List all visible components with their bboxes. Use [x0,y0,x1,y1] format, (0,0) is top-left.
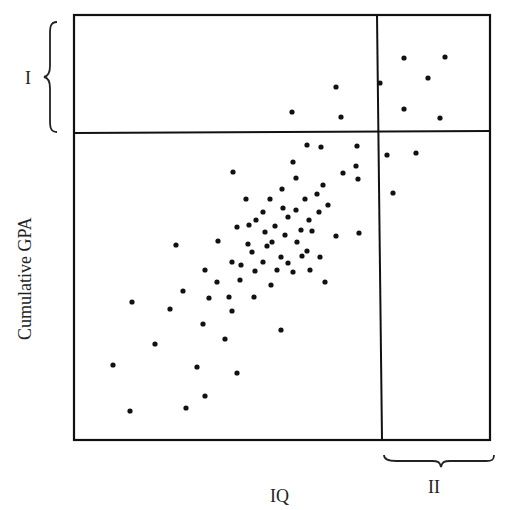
data-point [249,249,254,254]
data-point [229,308,234,313]
data-point [355,176,360,181]
data-point [401,106,406,111]
brace-left-icon [44,22,57,132]
data-point [167,306,172,311]
data-point [267,196,272,201]
data-point [290,269,295,274]
data-point [425,75,430,80]
data-point [280,205,285,210]
data-point [202,393,207,398]
data-point [333,84,338,89]
data-point [226,294,231,299]
brace-bottom-icon [384,455,494,467]
data-point [390,190,395,195]
data-point [110,362,115,367]
data-point [206,295,211,300]
data-point [278,327,283,332]
data-point [356,230,361,235]
data-point [173,242,178,247]
data-point [353,163,358,168]
data-point [325,202,330,207]
data-point [253,217,258,222]
data-point [129,299,134,304]
data-point [194,364,199,369]
data-point [260,259,265,264]
data-point [293,207,298,212]
data-point [298,227,303,232]
data-point [285,260,290,265]
data-point [285,214,290,219]
data-point [183,405,188,410]
data-point [234,370,239,375]
data-point [214,279,219,284]
data-point [338,114,343,119]
data-point [318,144,323,149]
data-point [246,222,251,227]
data-point [304,142,309,147]
data-points [110,54,447,413]
data-point [202,267,207,272]
data-point [340,170,345,175]
data-point [282,232,287,237]
x-axis-label: IQ [270,486,289,506]
data-point [289,109,294,114]
horizontal-divider [74,131,490,133]
data-point [230,169,235,174]
data-point [306,217,311,222]
data-point [272,223,277,228]
data-point [322,279,327,284]
data-point [152,341,157,346]
data-point [269,239,274,244]
data-point [229,259,234,264]
data-point [442,54,447,59]
data-point [278,254,283,259]
data-point [180,288,185,293]
data-point [309,228,314,233]
data-point [215,238,220,243]
data-point [354,143,359,148]
data-point [293,175,298,180]
data-point [234,224,239,229]
data-point [260,209,265,214]
y-axis-label: Cumulative GPA [15,217,35,340]
data-point [377,80,382,85]
label-region-i: I [25,68,31,88]
vertical-divider [377,15,382,440]
data-point [279,186,284,191]
data-point [290,159,295,164]
data-point [317,254,322,259]
data-point [333,233,338,238]
data-point [200,321,205,326]
data-point [222,336,227,341]
data-point [413,150,418,155]
data-point [384,152,389,157]
data-point [314,191,319,196]
data-point [252,268,257,273]
data-point [268,282,273,287]
data-point [243,196,248,201]
data-point [299,253,304,258]
data-point [237,277,242,282]
label-region-ii: II [428,477,440,497]
data-point [238,262,243,267]
data-point [304,248,309,253]
data-point [401,55,406,60]
data-point [264,243,269,248]
data-point [302,196,307,201]
data-point [262,229,267,234]
data-point [320,182,325,187]
data-point [251,294,256,299]
data-point [274,267,279,272]
data-point [307,267,312,272]
data-point [316,209,321,214]
data-point [245,241,250,246]
data-point [127,408,132,413]
data-point [437,115,442,120]
data-point [294,239,299,244]
scatter-chart: I II IQ Cumulative GPA [0,0,506,510]
